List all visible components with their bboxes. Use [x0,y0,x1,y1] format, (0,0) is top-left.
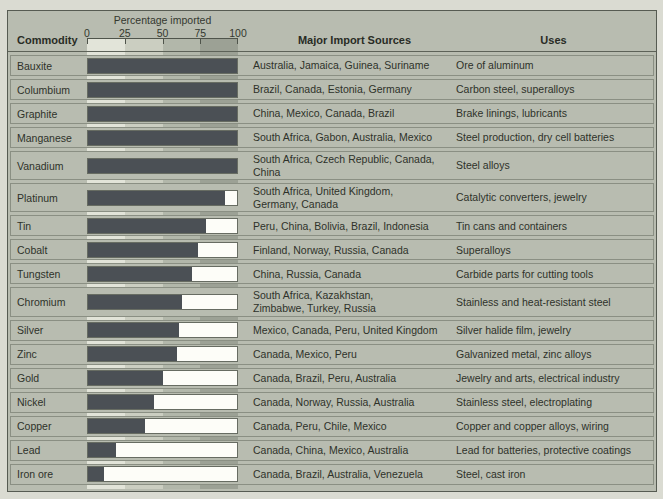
import-bar-cell [87,242,238,258]
bar-track [87,242,238,258]
commodity-label: Tin [11,220,87,232]
bar-track [87,266,238,282]
commodity-uses: Steel alloys [456,159,653,172]
commodity-label: Tungsten [11,268,87,280]
import-bar-cell [87,106,238,122]
bar-track [87,218,238,234]
bar-track [87,130,238,146]
bar-fill [88,107,237,121]
table-row: VanadiumSouth Africa, Czech Republic, Ca… [10,151,654,180]
scale-segment-3 [163,39,201,51]
import-sources: South Africa, Czech Republic, Canada, Ch… [238,153,456,178]
axis-title: Percentage imported [87,14,238,26]
bar-track [87,58,238,74]
table-row: Iron oreCanada, Brazil, Australia, Venez… [10,464,654,485]
table-row: LeadCanada, China, Mexico, AustraliaLead… [10,440,654,461]
import-sources: Canada, Norway, Russia, Australia [238,396,456,409]
import-bar-cell [87,370,238,386]
commodity-uses: Copper and copper alloys, wiring [456,420,653,433]
commodity-uses: Stainless and heat-resistant steel [456,296,653,309]
column-header-uses: Uses [456,34,651,46]
bar-track [87,418,238,434]
commodity-label: Graphite [11,108,87,120]
bar-track [87,190,238,206]
bar-fill [88,159,237,173]
commodity-label: Lead [11,444,87,456]
import-bar-cell [87,294,238,310]
import-bar-cell [87,190,238,206]
table-row: PlatinumSouth Africa, United Kingdom, Ge… [10,183,654,212]
axis-tick-mark [163,39,164,44]
import-bar-cell [87,130,238,146]
bar-track [87,346,238,362]
import-sources: China, Russia, Canada [238,268,456,281]
table-row: ChromiumSouth Africa, Kazakhstan, Zimbab… [10,287,654,316]
import-sources: Mexico, Canada, Peru, United Kingdom [238,324,456,337]
commodity-uses: Stainless steel, electroplating [456,396,653,409]
commodity-label: Copper [11,420,87,432]
import-bar-cell [87,418,238,434]
bar-fill [88,59,237,73]
commodity-label: Iron ore [11,468,87,480]
table-row: ColumbiumBrazil, Canada, Estonia, German… [10,79,654,100]
commodity-uses: Steel, cast iron [456,468,653,481]
bar-fill [88,419,145,433]
table-row: ZincCanada, Mexico, PeruGalvanized metal… [10,344,654,365]
column-header-sources: Major Import Sources [256,34,453,46]
scale-segment-2 [125,39,163,51]
commodity-uses: Steel production, dry cell batteries [456,131,653,144]
axis-tick-mark [200,39,201,44]
scale-segment-1 [87,39,125,51]
bar-fill [88,371,163,385]
bar-fill [88,467,104,481]
commodity-uses: Carbide parts for cutting tools [456,268,653,281]
bar-fill [88,295,182,309]
commodity-uses: Superalloys [456,244,653,257]
bar-fill [88,395,154,409]
bar-fill [88,219,206,233]
import-sources: China, Mexico, Canada, Brazil [238,107,456,120]
commodity-uses: Brake linings, lubricants [456,107,653,120]
import-sources: Canada, Peru, Chile, Mexico [238,420,456,433]
commodity-label: Platinum [11,192,87,204]
commodity-label: Chromium [11,296,87,308]
import-sources: South Africa, United Kingdom, Germany, C… [238,185,456,210]
commodity-uses: Lead for batteries, protective coatings [456,444,653,457]
commodity-label: Manganese [11,132,87,144]
commodity-label: Silver [11,324,87,336]
import-bar-cell [87,322,238,338]
import-bar-cell [87,466,238,482]
bar-track [87,466,238,482]
bar-track [87,106,238,122]
table-row: CobaltFinland, Norway, Russia, CanadaSup… [10,239,654,260]
commodity-uses: Catalytic converters, jewelry [456,191,653,204]
import-sources: South Africa, Gabon, Australia, Mexico [238,131,456,144]
import-sources: Brazil, Canada, Estonia, Germany [238,83,456,96]
bar-track [87,394,238,410]
import-sources: South Africa, Kazakhstan, Zimbabwe, Turk… [238,289,456,314]
import-bar-cell [87,82,238,98]
import-sources: Canada, Brazil, Australia, Venezuela [238,468,456,481]
commodity-label: Nickel [11,396,87,408]
table-header: Commodity Percentage imported 0255075100… [8,11,656,52]
table-row: GoldCanada, Brazil, Peru, AustraliaJewel… [10,368,654,389]
bar-fill [88,443,116,457]
commodity-label: Vanadium [11,160,87,172]
table-row: TinPeru, China, Bolivia, Brazil, Indones… [10,215,654,236]
table-row: CopperCanada, Peru, Chile, MexicoCopper … [10,416,654,437]
import-sources: Canada, Brazil, Peru, Australia [238,372,456,385]
commodity-label: Bauxite [11,60,87,72]
bar-track [87,442,238,458]
commodity-uses: Galvanized metal, zinc alloys [456,348,653,361]
import-bar-cell [87,266,238,282]
axis-scale-strip [87,38,238,51]
bar-track [87,158,238,174]
table-body: BauxiteAustralia, Jamaica, Guinea, Surin… [8,52,656,485]
bar-fill [88,243,198,257]
import-sources: Canada, China, Mexico, Australia [238,444,456,457]
commodity-label: Cobalt [11,244,87,256]
table-row: BauxiteAustralia, Jamaica, Guinea, Surin… [10,55,654,76]
import-sources: Australia, Jamaica, Guinea, Suriname [238,59,456,72]
import-sources: Canada, Mexico, Peru [238,348,456,361]
commodity-uses: Jewelry and arts, electrical industry [456,372,653,385]
